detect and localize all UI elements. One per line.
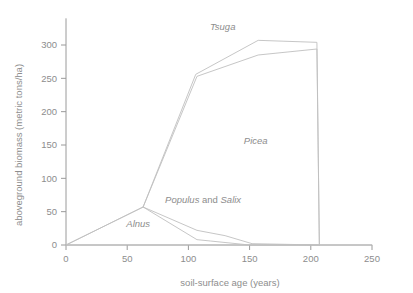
x-axis-ticks <box>66 245 372 250</box>
x-tick-label-250: 250 <box>364 253 380 264</box>
x-tick-label-0: 0 <box>63 253 68 264</box>
y-tick-label-150: 150 <box>41 139 57 150</box>
x-axis-title: soil-surface age (years) <box>180 277 279 288</box>
x-tick-label-100: 100 <box>180 253 196 264</box>
curve-boundary-upper-populus-salix <box>66 207 319 245</box>
y-tick-label-200: 200 <box>41 106 57 117</box>
annotation-tsuga: Tsuga <box>210 21 236 32</box>
y-tick-label-250: 250 <box>41 73 57 84</box>
x-tick-label-200: 200 <box>303 253 319 264</box>
x-tick-label-50: 50 <box>122 253 133 264</box>
y-tick-label-0: 0 <box>52 239 57 250</box>
y-axis-tick-labels: 050100150200250300 <box>41 39 57 250</box>
y-tick-label-300: 300 <box>41 39 57 50</box>
axis-group: 050100150200250300 050100150200250 <box>41 18 380 264</box>
annotation-populus-and-salix: Populus and Salix <box>165 194 242 205</box>
y-tick-label-50: 50 <box>46 206 57 217</box>
biomass-succession-chart: 050100150200250300 050100150200250 Tsuga… <box>0 0 413 293</box>
y-axis-title: aboveground biomass (metric tons/ha) <box>13 64 24 226</box>
y-axis-ticks <box>61 45 66 245</box>
annotation-picea: Picea <box>244 135 268 146</box>
y-tick-label-100: 100 <box>41 173 57 184</box>
x-axis-tick-labels: 050100150200250 <box>63 253 380 264</box>
x-tick-label-150: 150 <box>242 253 258 264</box>
curve-boundary-picea-top <box>143 49 319 245</box>
figure-chart: 050100150200250300 050100150200250 Tsuga… <box>0 0 413 293</box>
annotation-alnus: Alnus <box>125 218 150 229</box>
series-curves <box>66 40 372 245</box>
